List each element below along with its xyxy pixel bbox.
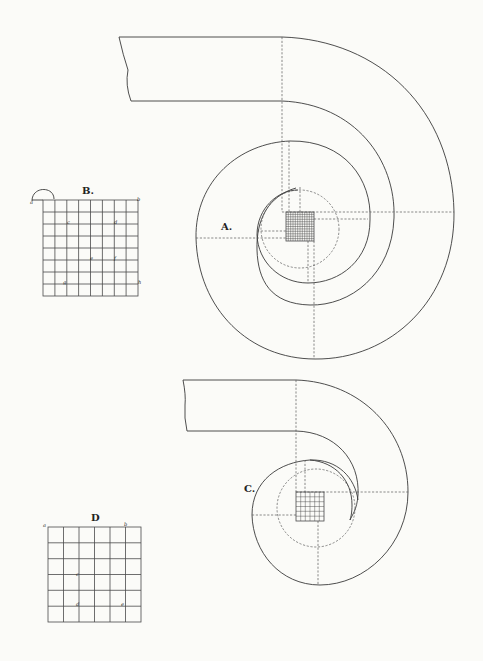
label-b: B. (82, 185, 94, 196)
grid-b-point: h (138, 279, 141, 285)
grid-d-point: e (121, 601, 124, 607)
volute-c (183, 380, 408, 585)
grid-d-point: d (76, 601, 79, 607)
grid-d-point: c (76, 571, 79, 577)
grid-d-point: b (124, 521, 127, 527)
grid-d (48, 527, 141, 622)
label-d: D (91, 512, 100, 523)
volute-a (119, 37, 454, 359)
grid-b-point: e (90, 255, 93, 261)
label-c: C. (244, 483, 255, 494)
grid-b-point: a (30, 199, 33, 205)
volute-drawing-plate: A. B. C. D a b c d e f g h a b c d e (0, 0, 483, 661)
grid-b-point: c (67, 219, 70, 225)
grid-b-point: d (114, 219, 117, 225)
grid-d-point: a (43, 522, 46, 528)
grid-b-point: g (63, 279, 66, 285)
grid-b (32, 189, 138, 296)
drawing-svg (0, 0, 483, 661)
grid-b-point: b (137, 196, 140, 202)
grid-b-point: f (114, 255, 116, 261)
label-a: A. (221, 221, 232, 232)
